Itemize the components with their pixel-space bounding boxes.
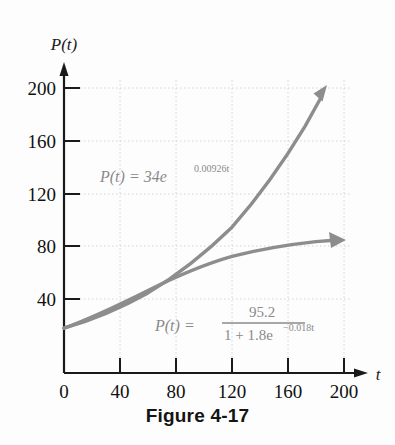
y-tick-label-120: 120 bbox=[28, 184, 57, 205]
y-tick-label-160: 160 bbox=[28, 131, 57, 152]
y-tick-label-200: 200 bbox=[28, 78, 57, 99]
y-axis-title: P(t) bbox=[50, 35, 78, 54]
logistic-formula-numerator: 95.2 bbox=[249, 304, 275, 320]
y-axis-arrowhead bbox=[60, 62, 69, 76]
exponential-curve bbox=[64, 98, 321, 329]
x-tick-marks bbox=[120, 358, 344, 373]
x-tick-label-160: 160 bbox=[274, 381, 303, 402]
x-axis-title: t bbox=[376, 365, 382, 384]
x-tick-label-40: 40 bbox=[111, 381, 130, 402]
y-tick-label-80: 80 bbox=[37, 236, 56, 257]
x-tick-label-0: 0 bbox=[59, 381, 69, 402]
exponential-formula-annotation: P(t) = 34e 0.00926t bbox=[99, 163, 230, 186]
x-tick-label-80: 80 bbox=[167, 381, 186, 402]
logistic-formula-lhs: P(t) = bbox=[154, 317, 195, 335]
y-tick-marks bbox=[64, 88, 80, 299]
chart-plot: 200 160 120 80 40 0 40 80 120 160 200 P(… bbox=[0, 0, 395, 445]
figure-caption: Figure 4-17 bbox=[0, 405, 395, 427]
y-tick-label-40: 40 bbox=[37, 289, 56, 310]
logistic-formula-denominator-exponent: −0.018t bbox=[283, 322, 314, 333]
logistic-formula-annotation: P(t) = 95.2 1 + 1.8e −0.018t bbox=[154, 304, 314, 343]
exponential-formula-exponent: 0.00926t bbox=[194, 163, 230, 174]
exponential-formula-lhs: P(t) = 34e bbox=[99, 168, 167, 186]
x-tick-label-120: 120 bbox=[218, 381, 247, 402]
figure-container: 200 160 120 80 40 0 40 80 120 160 200 P(… bbox=[0, 0, 395, 445]
x-axis-arrowhead bbox=[354, 369, 368, 378]
logistic-formula-denominator: 1 + 1.8e bbox=[224, 327, 273, 343]
x-tick-label-200: 200 bbox=[330, 381, 359, 402]
exponential-curve-arrowhead bbox=[314, 85, 328, 102]
